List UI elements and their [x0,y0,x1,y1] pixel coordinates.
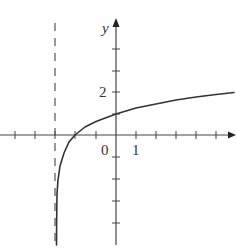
log-curve [57,93,235,246]
y-tick-label-2: 2 [99,84,107,100]
y-axis-arrow-icon [113,18,120,27]
x-axis-arrow-icon [228,132,236,139]
origin-label: 0 [101,142,109,158]
function-graph: y 2 0 1 [0,0,236,251]
x-tick-label-1: 1 [132,142,140,158]
y-axis-label: y [100,20,109,36]
